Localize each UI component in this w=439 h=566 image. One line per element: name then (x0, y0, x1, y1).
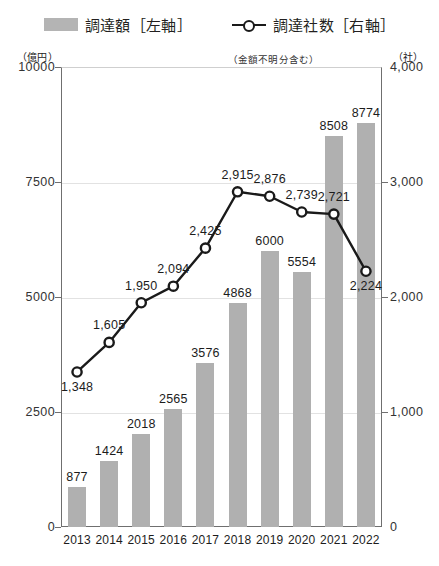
legend-line-sublabel: （金額不明分含む） (0, 52, 439, 66)
bar-label-2014: 1424 (95, 444, 124, 458)
bar-label-2018: 4868 (223, 286, 252, 300)
legend-line-label: 調達社数［右軸］ (273, 14, 395, 35)
right-tick-label-2000: 2,000 (390, 290, 423, 304)
x-label-2020: 2020 (288, 533, 316, 547)
right-tick-label-0: 0 (390, 520, 397, 534)
right-tick-mark-1000 (382, 412, 388, 413)
line-marker-2022 (361, 267, 370, 276)
line-marker-2017 (201, 244, 210, 253)
line-label-2015: 1,950 (125, 279, 157, 293)
bar-label-2020: 5554 (287, 255, 316, 269)
chart-legend: 調達額［左軸］ 調達社数［右軸］ （金額不明分含む） (0, 14, 439, 54)
bar-label-2013: 877 (66, 470, 87, 484)
left-tick-mark-0 (55, 527, 61, 528)
left-tick-label-10000: 10000 (7, 60, 55, 74)
right-tick-mark-2000 (382, 297, 388, 298)
line-label-2016: 2,094 (157, 262, 189, 276)
line-marker-2013 (72, 367, 81, 376)
left-tick-label-7500: 7500 (7, 175, 55, 189)
line-marker-2015 (137, 298, 146, 307)
line-label-2021: 2,721 (318, 190, 350, 204)
bar-label-2016: 2565 (159, 392, 188, 406)
line-marker-2019 (265, 192, 274, 201)
line-label-2013: 1,348 (61, 380, 93, 394)
line-label-2022: 2,224 (350, 279, 382, 293)
right-tick-mark-3000 (382, 182, 388, 183)
x-label-2016: 2016 (160, 533, 188, 547)
line-label-2014: 1,605 (93, 318, 125, 332)
bar-label-2022: 8774 (352, 106, 381, 120)
left-tick-label-5000: 5000 (7, 290, 55, 304)
bar-label-2019: 6000 (255, 234, 284, 248)
right-tick-label-1000: 1,000 (390, 405, 423, 419)
bar-label-2021: 8508 (320, 119, 349, 133)
legend-item-line: 調達社数［右軸］ (232, 14, 395, 35)
legend-item-bar: 調達額［左軸］ (44, 14, 192, 35)
x-label-2014: 2014 (95, 533, 123, 547)
x-label-2017: 2017 (192, 533, 220, 547)
x-label-2015: 2015 (128, 533, 156, 547)
line-marker-2016 (169, 282, 178, 291)
x-label-2021: 2021 (320, 533, 348, 547)
bar-label-2017: 3576 (191, 346, 220, 360)
line-marker-2020 (297, 207, 306, 216)
line-marker-2021 (329, 209, 338, 218)
legend-bar-label: 調達額［左軸］ (85, 14, 192, 35)
x-label-2013: 2013 (63, 533, 91, 547)
line-marker-2014 (105, 338, 114, 347)
line-label-2019: 2,876 (254, 172, 286, 186)
legend-bar-swatch (44, 18, 78, 31)
legend-line-swatch (232, 18, 266, 32)
right-tick-label-4000: 4,000 (390, 60, 423, 74)
x-label-2019: 2019 (256, 533, 284, 547)
bar-label-2015: 2018 (127, 417, 156, 431)
x-label-2022: 2022 (352, 533, 380, 547)
chart-figure: 調達額［左軸］ 調達社数［右軸］ （金額不明分含む） （億円） （社） 1000… (0, 0, 439, 566)
line-label-2017: 2,425 (189, 224, 221, 238)
line-label-2018: 2,915 (221, 168, 253, 182)
left-tick-label-0: 0 (7, 520, 55, 534)
right-tick-label-3000: 3,000 (390, 175, 423, 189)
x-label-2018: 2018 (224, 533, 252, 547)
left-tick-label-2500: 2500 (7, 405, 55, 419)
line-label-2020: 2,739 (286, 188, 318, 202)
line-path (77, 192, 366, 372)
line-marker-2018 (233, 187, 242, 196)
